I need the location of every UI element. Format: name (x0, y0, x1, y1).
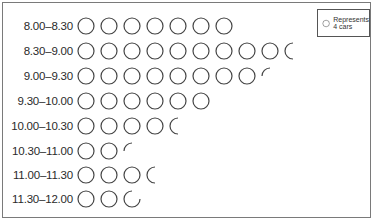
circle-icon (237, 66, 257, 86)
circle-icon (99, 41, 119, 61)
row-icons (76, 116, 191, 136)
circle-icon (122, 41, 142, 61)
circle-icon (191, 91, 211, 111)
circle-icon (99, 116, 119, 136)
pictogram-row: 8.00–8.30 (3, 14, 237, 37)
circle-icon (76, 66, 96, 86)
row-icons (76, 165, 168, 185)
row-label: 8.30–9.00 (3, 45, 76, 57)
row-icons (76, 16, 237, 36)
pictogram-row: 9.00–9.30 (3, 64, 283, 87)
legend-text: Represents 4 cars (333, 16, 369, 31)
circle-icon (122, 116, 142, 136)
row-icons (76, 189, 145, 209)
chart-frame: Represents 4 cars 8.00–8.308.30–9.009.00… (2, 2, 371, 218)
row-icons (76, 41, 306, 61)
circle-icon (122, 165, 142, 185)
circle-icon (99, 91, 119, 111)
row-label: 8.00–8.30 (3, 20, 76, 32)
circle-icon (99, 165, 119, 185)
circle-icon (122, 16, 142, 36)
legend-line-2: 4 cars (333, 23, 369, 31)
circle-icon (145, 16, 165, 36)
partial-circle-icon (122, 189, 142, 209)
circle-icon (99, 16, 119, 36)
circle-icon (260, 41, 280, 61)
circle-icon (122, 91, 142, 111)
circle-icon (145, 41, 165, 61)
row-label: 11.30–12.00 (3, 193, 76, 205)
circle-icon (168, 16, 188, 36)
pictogram-row: 10.00–10.30 (3, 114, 191, 137)
circle-icon (76, 189, 96, 209)
pictogram-row: 10.30–11.00 (3, 139, 145, 162)
pictogram-row: 8.30–9.00 (3, 39, 306, 62)
circle-icon (99, 189, 119, 209)
circle-icon (168, 41, 188, 61)
circle-icon (168, 66, 188, 86)
circle-icon (322, 15, 330, 32)
circle-icon (214, 41, 234, 61)
circle-icon (168, 91, 188, 111)
circle-icon (99, 66, 119, 86)
circle-icon (76, 41, 96, 61)
row-label: 11.00–11.30 (3, 169, 76, 181)
circle-icon (122, 66, 142, 86)
circle-icon (214, 66, 234, 86)
circle-icon (99, 141, 119, 161)
circle-icon (191, 16, 211, 36)
circle-icon (76, 141, 96, 161)
row-icons (76, 91, 214, 111)
legend: Represents 4 cars (317, 9, 370, 37)
circle-icon (145, 66, 165, 86)
circle-icon (191, 66, 211, 86)
circle-icon (237, 41, 257, 61)
row-icons (76, 141, 145, 161)
circle-icon (76, 91, 96, 111)
circle-icon (214, 16, 234, 36)
partial-circle-icon (122, 141, 142, 161)
pictogram-row: 11.30–12.00 (3, 187, 145, 210)
row-label: 10.30–11.00 (3, 145, 76, 157)
circle-icon (76, 165, 96, 185)
pictogram-row: 11.00–11.30 (3, 163, 168, 186)
row-label: 10.00–10.30 (3, 120, 76, 132)
partial-circle-icon (168, 116, 188, 136)
partial-circle-icon (145, 165, 165, 185)
pictogram-row: 9.30–10.00 (3, 89, 214, 112)
row-label: 9.30–10.00 (3, 95, 76, 107)
legend-line-1: Represents (333, 16, 369, 24)
row-label: 9.00–9.30 (3, 70, 76, 82)
circle-icon (76, 16, 96, 36)
partial-circle-icon (283, 41, 303, 61)
circle-icon (191, 41, 211, 61)
circle-icon (145, 116, 165, 136)
partial-circle-icon (260, 66, 280, 86)
circle-icon (76, 116, 96, 136)
row-icons (76, 66, 283, 86)
circle-icon (145, 91, 165, 111)
